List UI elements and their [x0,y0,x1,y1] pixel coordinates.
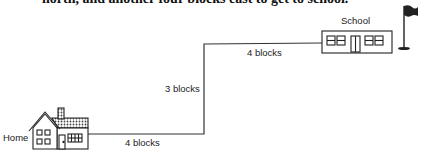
segment-label-top: 4 blocks [247,47,282,58]
segment-label-bottom: 4 blocks [125,137,160,148]
flag-icon [398,5,418,50]
segment-label-vertical: 3 blocks [165,83,200,94]
school-building-icon [322,31,392,53]
house-icon [29,108,88,149]
route-path [88,43,322,134]
school-label: School [341,15,370,26]
home-label: Home [3,132,28,143]
route-diagram: north, and another four blocks east to g… [0,0,422,157]
